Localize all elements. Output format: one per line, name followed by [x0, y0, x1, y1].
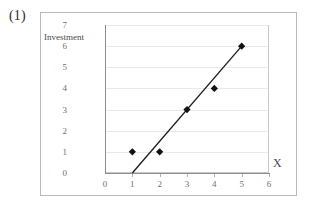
data-point-marker — [211, 85, 218, 92]
x-tick-mark — [242, 174, 243, 177]
x-tick-label: 0 — [97, 180, 113, 189]
x-tick-label: 6 — [261, 180, 277, 189]
y-tick-label: 6 — [45, 42, 67, 51]
y-tick-label: 2 — [45, 127, 67, 136]
data-point-marker — [129, 148, 136, 155]
figure-number-label: (1) — [9, 9, 26, 23]
x-tick-label: 1 — [124, 180, 140, 189]
x-tick-label: 5 — [234, 180, 250, 189]
x-tick-label: 3 — [179, 180, 195, 189]
scatter-chart: Investment 01234567 0123456 X — [41, 13, 298, 197]
x-tick-mark — [160, 174, 161, 177]
y-tick-label: 5 — [45, 63, 67, 72]
x-tick-mark — [187, 174, 188, 177]
y-tick-label: 1 — [45, 148, 67, 157]
y-tick-label: 0 — [45, 169, 67, 178]
data-series — [105, 25, 269, 173]
y-tick-label: 3 — [45, 106, 67, 115]
figure-frame: Investment 01234567 0123456 X — [40, 12, 297, 196]
x-tick-mark — [214, 174, 215, 177]
x-tick-label: 4 — [206, 180, 222, 189]
y-tick-label: 4 — [45, 84, 67, 93]
x-axis-title: X — [273, 157, 282, 169]
x-tick-label: 2 — [152, 180, 168, 189]
y-tick-label: 7 — [45, 21, 67, 30]
data-point-markers — [129, 43, 246, 156]
x-tick-mark — [269, 174, 270, 177]
data-point-marker — [156, 148, 163, 155]
x-tick-mark — [132, 174, 133, 177]
